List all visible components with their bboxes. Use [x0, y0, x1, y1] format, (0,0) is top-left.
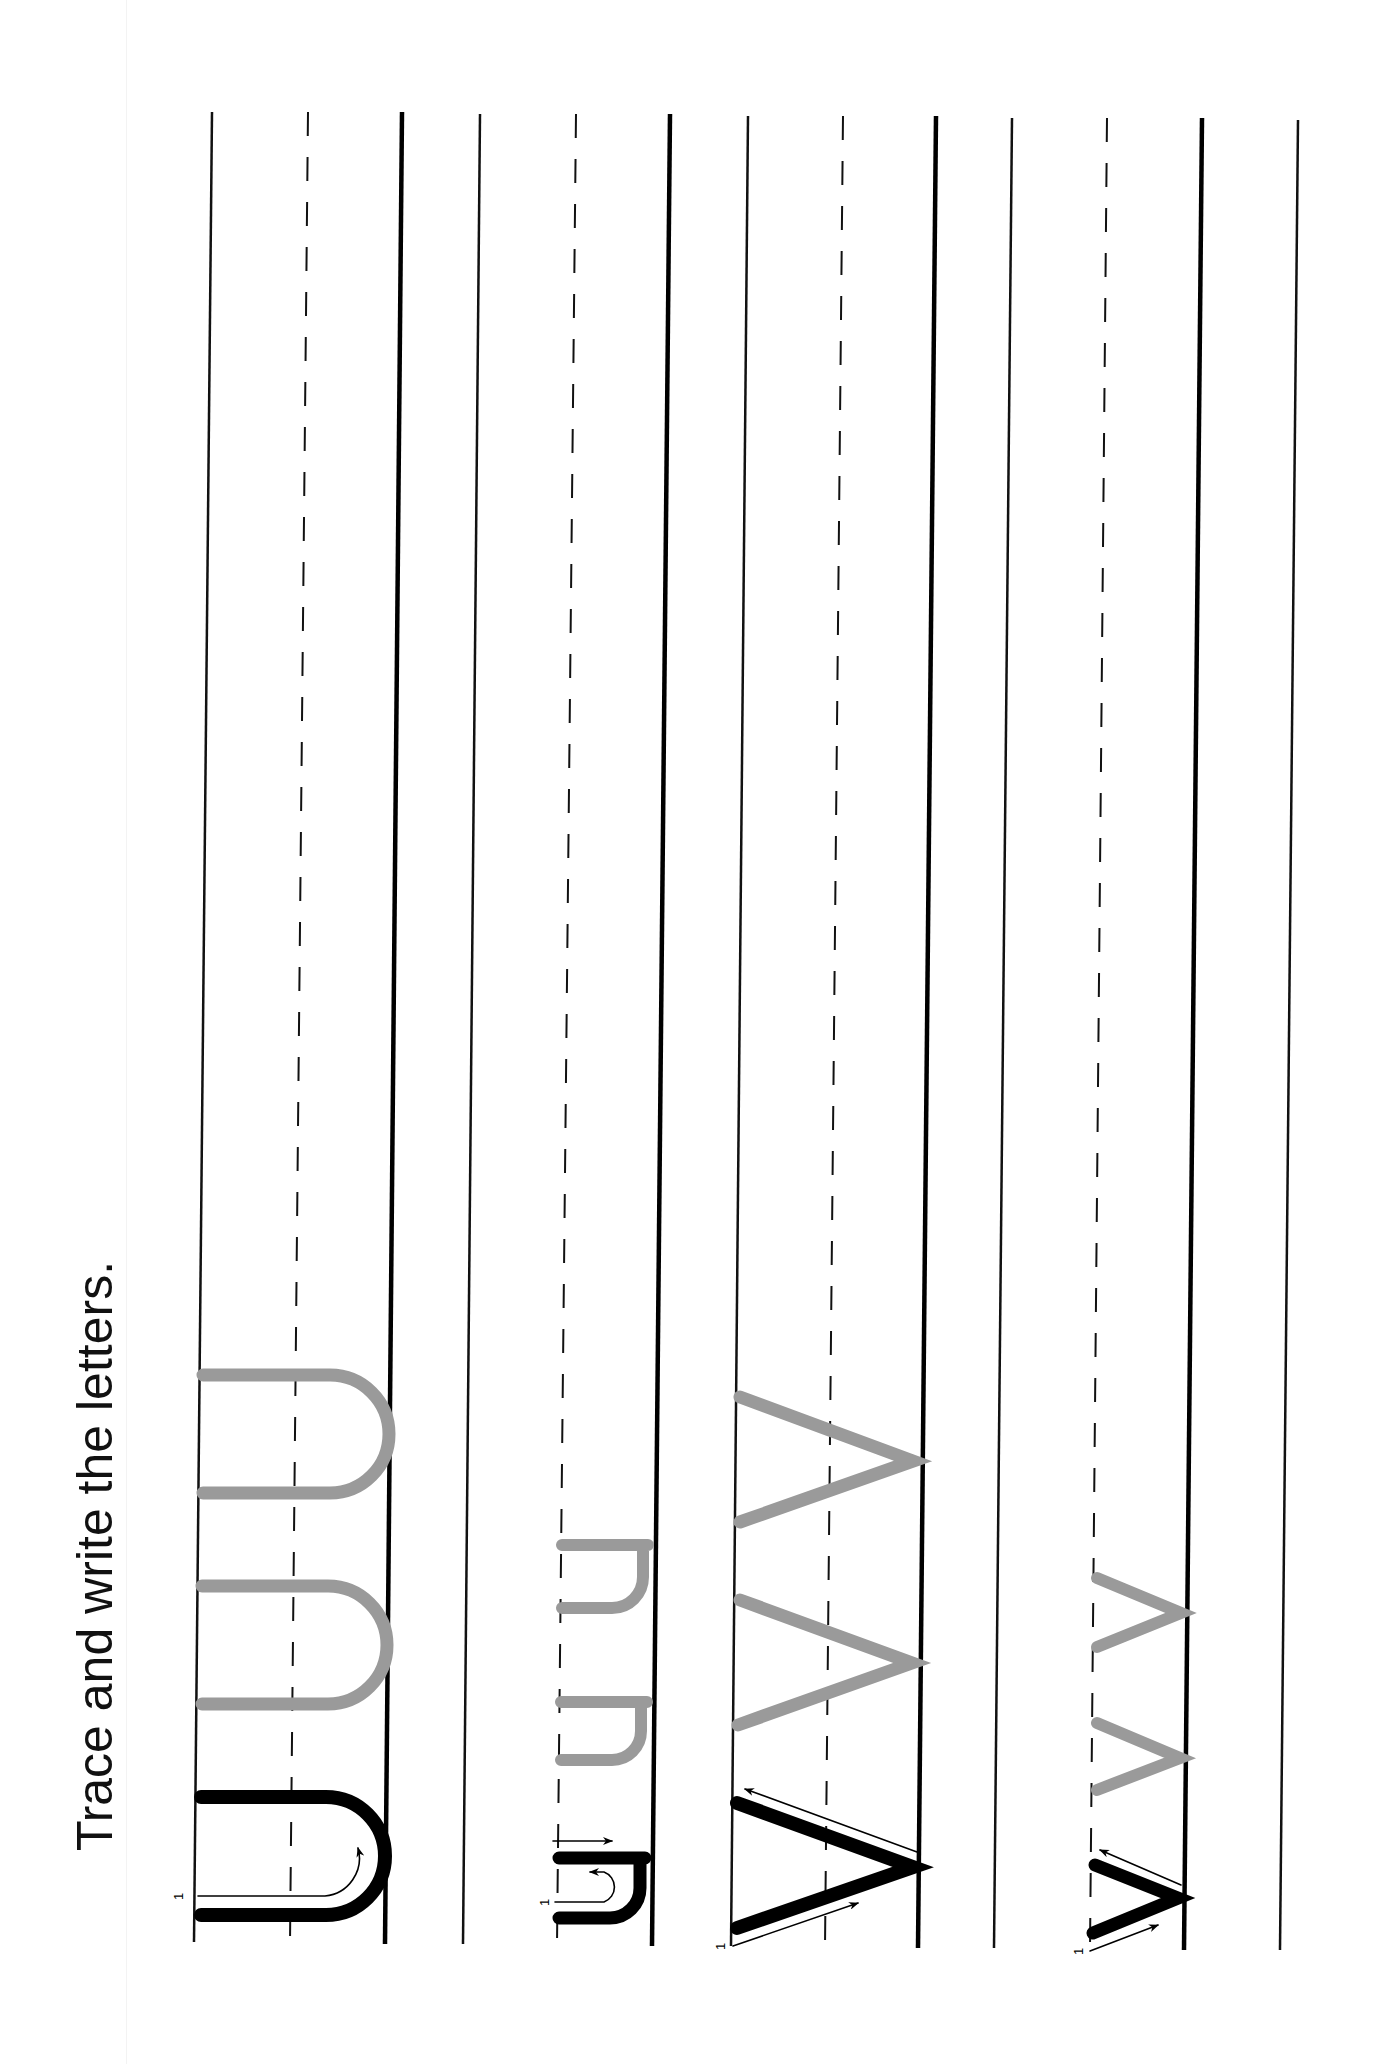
model-letter-U [201, 1797, 385, 1915]
row-1-lines [194, 112, 402, 1944]
trace-letter-V-2 [738, 1600, 912, 1725]
trace-letter-u-2 [561, 1702, 647, 1760]
trace-letter-V-1 [740, 1397, 913, 1522]
handwriting-lines: 1 1 1 1 [0, 0, 1389, 2064]
stroke-number-label: 1 [537, 1899, 552, 1906]
row-4-lines [994, 118, 1298, 1950]
row-3-letters: 1 [713, 1397, 917, 1950]
row-2-letters: 1 [537, 1545, 648, 1918]
trace-letter-v-1 [1097, 1578, 1181, 1647]
row-3-lines [731, 116, 936, 1948]
row-4-letters: 1 [1071, 1578, 1181, 1955]
model-letter-v [1093, 1865, 1178, 1933]
worksheet-page: Trace and write the letters. [0, 0, 1389, 2064]
stroke-direction-arrow [198, 1848, 359, 1896]
row-1-letters: 1 [171, 1375, 389, 1915]
stroke-number-label: 1 [171, 1893, 186, 1900]
trace-letter-u-1 [562, 1545, 648, 1608]
row-2-lines [463, 114, 670, 1946]
stroke-number-label: 1 [713, 1943, 728, 1950]
trace-letter-U-2 [202, 1586, 387, 1704]
trace-letter-v-2 [1097, 1723, 1180, 1790]
stroke-number-label: 1 [1071, 1948, 1086, 1955]
model-letter-u [559, 1858, 645, 1918]
stroke-direction-arrow-up [555, 1872, 614, 1902]
model-letter-V [737, 1803, 913, 1928]
